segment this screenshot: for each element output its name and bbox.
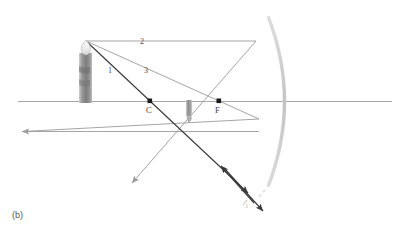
ray-3-reflected (22, 119, 259, 132)
ray-diagram-canvas (0, 0, 406, 237)
faint-mark-label: 1 (245, 203, 249, 210)
ray-diagram-figure: 1 2 3 C F 1 (b) (0, 0, 406, 237)
focal-point-label: F (215, 106, 220, 115)
ray-1-reflected-back-arrow (221, 166, 254, 203)
image-candle-body (186, 100, 192, 116)
image-candle-flame (187, 115, 191, 122)
ray-2-label: 2 (140, 38, 144, 46)
ray-1-label: 1 (108, 67, 112, 75)
mirror-tail-dashes (258, 190, 265, 198)
candle-body (79, 53, 92, 103)
image-candle-inverted (186, 100, 192, 123)
panel-label: (b) (12, 211, 23, 220)
object-candle (79, 40, 92, 103)
ray-1-through-center (86, 41, 248, 193)
ray-3-incident (86, 41, 259, 119)
center-of-curvature-label: C (146, 106, 152, 115)
ray-3-label: 3 (144, 67, 148, 75)
center-of-curvature-marker (148, 99, 153, 104)
focal-point-marker (217, 99, 222, 104)
